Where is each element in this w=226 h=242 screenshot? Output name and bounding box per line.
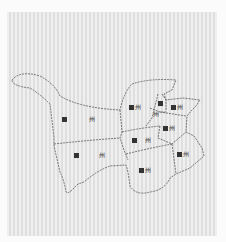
- outer-boundary: [12, 74, 204, 193]
- boundary-center-row: [122, 126, 160, 132]
- label-suffix: 州: [183, 151, 189, 157]
- boundary-west-ew: [54, 138, 120, 144]
- label-suffix: 州: [145, 137, 151, 143]
- illegible-glyph: [139, 168, 144, 173]
- region-label-east-mid: 州: [163, 125, 175, 131]
- label-suffix: 州: [89, 116, 95, 122]
- illegible-glyph: [132, 138, 137, 143]
- region-label-ne-small-2: 州: [171, 104, 183, 110]
- illegible-glyph: [177, 152, 182, 157]
- label-suffix: 州: [145, 167, 151, 173]
- illegible-glyph: [163, 126, 168, 131]
- map-boundaries: [0, 0, 226, 242]
- illegible-glyph: [171, 105, 176, 110]
- region-label-east-south: 州: [177, 151, 189, 157]
- boundary-center-south: [126, 144, 172, 154]
- label-suffix: 州: [135, 104, 141, 110]
- illegible-glyph: [158, 101, 163, 106]
- illegible-glyph: [62, 117, 67, 122]
- region-label-west-north: 州: [62, 116, 95, 122]
- boundary-west-center: [120, 110, 128, 160]
- region-label-center-south: 州: [139, 167, 151, 173]
- region-label-center-mid: 州: [132, 137, 151, 143]
- label-suffix: 州: [99, 152, 105, 158]
- region-label-center-north: 州: [129, 104, 141, 110]
- region-label-west-south: 州: [74, 152, 105, 158]
- region-label-ne-small-1: [158, 101, 163, 106]
- illegible-glyph: [74, 153, 79, 158]
- illegible-glyph: [129, 105, 134, 110]
- region-label-ne-small-3: 州: [153, 111, 159, 117]
- label-suffix: 州: [177, 104, 183, 110]
- label-suffix: 州: [169, 125, 175, 131]
- label-suffix: 州: [153, 111, 159, 117]
- boundary-ne-4: [160, 112, 186, 116]
- boundary-east-2: [172, 144, 176, 174]
